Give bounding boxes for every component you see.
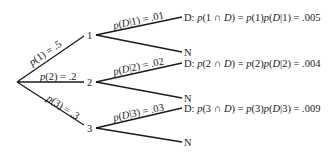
branch-1-to-N bbox=[96, 35, 182, 52]
node-2: 2 bbox=[87, 77, 92, 88]
cond-label-1: p(D|1) = .01 bbox=[111, 9, 165, 32]
branch-3-to-N bbox=[96, 128, 182, 142]
probability-tree-diagram: p(1) = .5 p(2) = .2 p(3) = .3 1 2 3 p(D|… bbox=[0, 0, 332, 154]
node-3: 3 bbox=[87, 123, 92, 134]
branch-label-2: p(2) = .2 bbox=[39, 71, 77, 83]
outcome-N-2: N bbox=[184, 93, 192, 104]
outcome-D-1: D: p(1 ∩ D) = p(1)p(D|1) = .005 bbox=[184, 12, 320, 24]
outcome-N-1: N bbox=[184, 47, 192, 58]
cond-label-3: p(D|3) = .03 bbox=[111, 101, 165, 124]
outcome-D-3: D: p(3 ∩ D) = p(3)p(D|3) = .009 bbox=[184, 103, 320, 115]
node-1: 1 bbox=[87, 30, 92, 41]
outcome-N-3: N bbox=[184, 137, 192, 148]
cond-label-2: p(D|2) = .02 bbox=[111, 55, 165, 78]
branch-label-3: p(3) = .3 bbox=[44, 92, 82, 123]
branch-2-to-N bbox=[96, 82, 182, 98]
outcome-D-2: D: p(2 ∩ D) = p(2)p(D|2) = .004 bbox=[184, 58, 321, 70]
